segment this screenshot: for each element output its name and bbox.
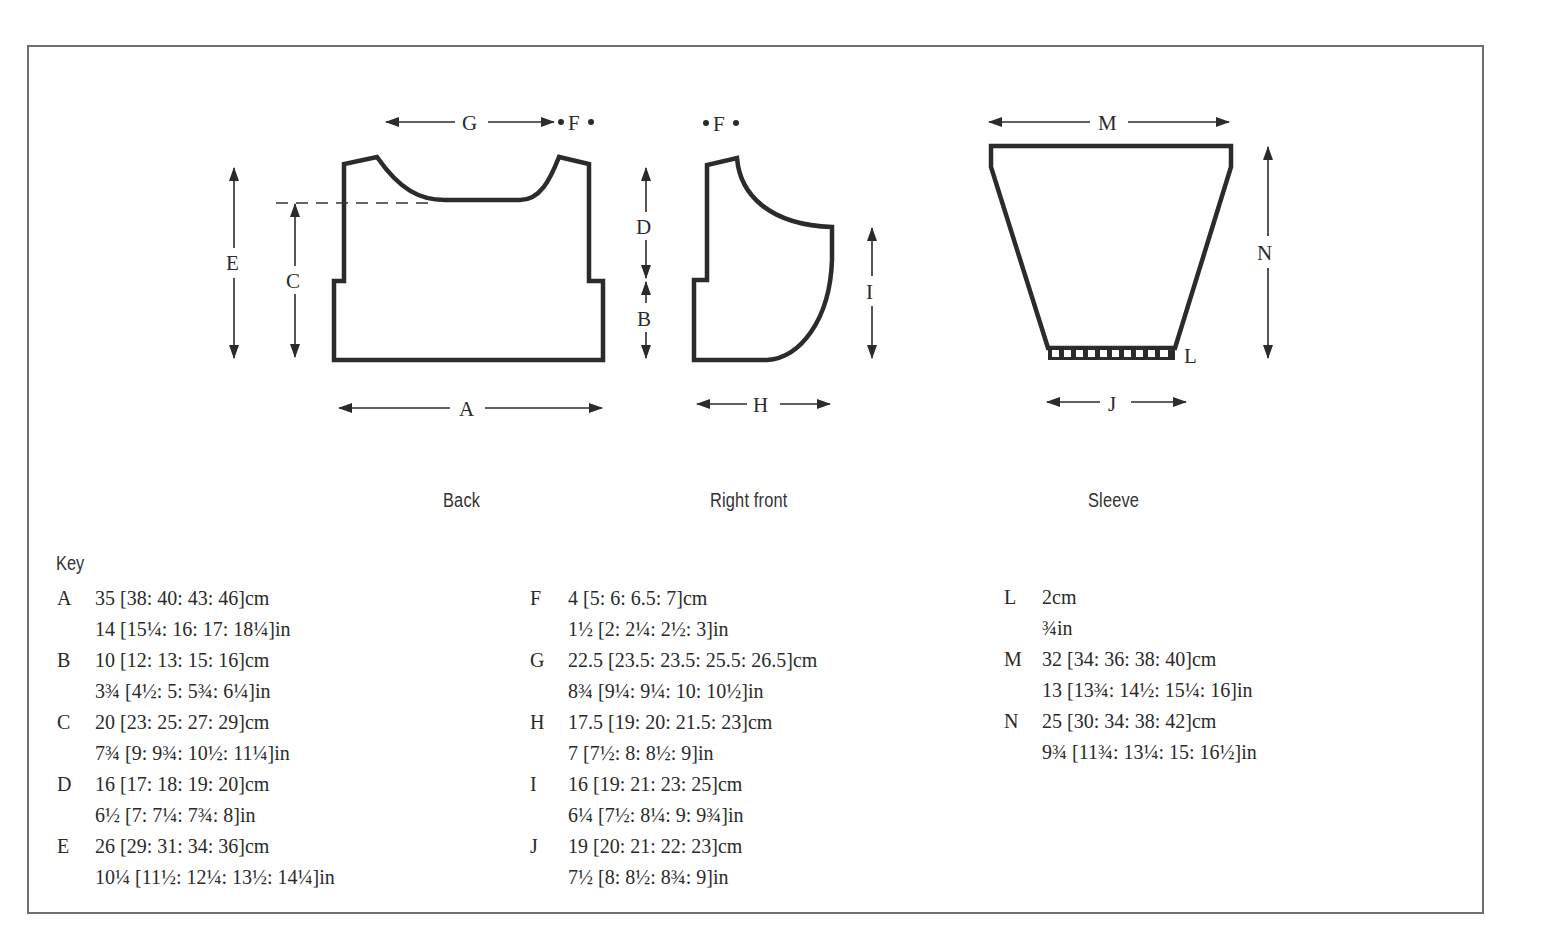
dimension-b: B — [637, 282, 651, 358]
key-title: Key — [56, 552, 84, 575]
dimension-g: G F — [386, 111, 594, 135]
key-cm-value: 2cm — [1042, 582, 1076, 612]
key-in-value: ¾in — [1042, 613, 1073, 643]
key-letter: N — [1004, 706, 1018, 736]
dimension-c: C — [286, 204, 300, 357]
key-cm-value: 22.5 [23.5: 23.5: 25.5: 26.5]cm — [568, 645, 817, 675]
right-front-outline — [694, 158, 832, 360]
label-l: L — [1184, 344, 1197, 368]
label-j: J — [1108, 392, 1116, 416]
key-letter: G — [530, 645, 544, 675]
label-g: G — [462, 111, 477, 135]
key-cm-value: 16 [17: 18: 19: 20]cm — [95, 769, 269, 799]
key-cm-value: 4 [5: 6: 6.5: 7]cm — [568, 583, 707, 613]
dimension-n: N — [1257, 147, 1272, 358]
key-cm-value: 20 [23: 25: 27: 29]cm — [95, 707, 269, 737]
key-letter: F — [530, 583, 541, 613]
key-in-value: 1½ [2: 2¼: 2½: 3]in — [568, 614, 729, 644]
dimension-f-front: F — [703, 112, 739, 136]
label-f-front: F — [713, 112, 725, 136]
label-d: D — [636, 215, 651, 239]
dimension-a: A — [339, 397, 602, 421]
label-f: F — [568, 111, 580, 135]
back-outline — [334, 157, 603, 360]
key-cm-value: 10 [12: 13: 15: 16]cm — [95, 645, 269, 675]
key-cm-value: 17.5 [19: 20: 21.5: 23]cm — [568, 707, 772, 737]
caption-sleeve: Sleeve — [1088, 489, 1139, 512]
key-in-value: 13 [13¾: 14½: 15¼: 16]in — [1042, 675, 1253, 705]
label-a: A — [459, 397, 475, 421]
key-in-value: 10¼ [11½: 12¼: 13½: 14¼]in — [95, 862, 335, 892]
dimension-e: E — [226, 168, 239, 358]
key-in-value: 14 [15¼: 16: 17: 18¼]in — [95, 614, 291, 644]
label-h: H — [753, 393, 768, 417]
key-letter: L — [1004, 582, 1016, 612]
key-in-value: 3¾ [4½: 5: 5¾: 6¼]in — [95, 676, 271, 706]
key-cm-value: 32 [34: 36: 38: 40]cm — [1042, 644, 1216, 674]
sleeve-piece: L M N J — [989, 111, 1272, 416]
key-letter: E — [57, 831, 69, 861]
label-n: N — [1257, 241, 1272, 265]
label-b: B — [637, 307, 651, 331]
key-letter: I — [530, 769, 537, 799]
key-in-value: 7 [7½: 8: 8½: 9]in — [568, 738, 714, 768]
key-letter: C — [57, 707, 70, 737]
dimension-m: M — [989, 111, 1229, 135]
right-front-piece: F D B I H — [636, 112, 873, 417]
key-letter: J — [530, 831, 538, 861]
key-in-value: 6½ [7: 7¼: 7¾: 8]in — [95, 800, 256, 830]
back-piece: G F E C A — [226, 111, 603, 421]
key-cm-value: 35 [38: 40: 43: 46]cm — [95, 583, 269, 613]
dimension-d: D — [636, 168, 651, 278]
key-cm-value: 26 [29: 31: 34: 36]cm — [95, 831, 269, 861]
key-in-value: 8¾ [9¼: 9¼: 10: 10½]in — [568, 676, 764, 706]
dimension-h: H — [697, 393, 830, 417]
sleeve-outline — [991, 146, 1231, 348]
label-i: I — [866, 280, 873, 304]
caption-back: Back — [443, 489, 480, 512]
label-e: E — [226, 251, 239, 275]
key-cm-value: 25 [30: 34: 38: 42]cm — [1042, 706, 1216, 736]
label-m: M — [1098, 111, 1117, 135]
caption-right-front: Right front — [710, 489, 787, 512]
dimension-i: I — [866, 228, 873, 358]
key-in-value: 6¼ [7½: 8¼: 9: 9¾]in — [568, 800, 744, 830]
key-letter: B — [57, 645, 70, 675]
dimension-j: J — [1047, 392, 1186, 416]
key-letter: D — [57, 769, 71, 799]
key-letter: M — [1004, 644, 1022, 674]
key-cm-value: 16 [19: 21: 23: 25]cm — [568, 769, 742, 799]
key-in-value: 9¾ [11¾: 13¼: 15: 16½]in — [1042, 737, 1257, 767]
label-c: C — [286, 269, 300, 293]
key-in-value: 7½ [8: 8½: 8¾: 9]in — [568, 862, 729, 892]
key-letter: A — [57, 583, 71, 613]
key-in-value: 7¾ [9: 9¾: 10½: 11¼]in — [95, 738, 290, 768]
key-cm-value: 19 [20: 21: 22: 23]cm — [568, 831, 742, 861]
key-letter: H — [530, 707, 544, 737]
